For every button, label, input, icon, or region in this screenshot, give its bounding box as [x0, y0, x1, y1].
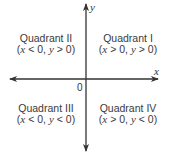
quadrant-3-condition: (x < 0, y < 0) — [6, 114, 86, 125]
quadrant-1: Quadrant I (x > 0, y > 0) — [88, 33, 168, 55]
quadrant-3: Quadrant III (x < 0, y < 0) — [6, 103, 86, 125]
coordinate-axes — [0, 0, 170, 155]
x-axis-label: x — [154, 65, 159, 77]
quadrant-1-condition: (x > 0, y > 0) — [88, 44, 168, 55]
quadrant-2: Quadrant II (x < 0, y > 0) — [6, 33, 86, 55]
quadrant-4: Quadrant IV (x > 0, y < 0) — [88, 103, 168, 125]
origin-label: 0 — [77, 82, 83, 93]
quadrant-2-condition: (x < 0, y > 0) — [6, 44, 86, 55]
quadrant-4-condition: (x > 0, y < 0) — [88, 114, 168, 125]
y-axis-label: y — [90, 1, 95, 13]
